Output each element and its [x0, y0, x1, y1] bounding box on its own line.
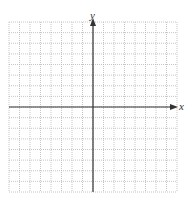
- coordinate-plane: [0, 0, 188, 204]
- x-axis-label: x: [179, 101, 184, 112]
- y-axis-label: y: [90, 10, 95, 21]
